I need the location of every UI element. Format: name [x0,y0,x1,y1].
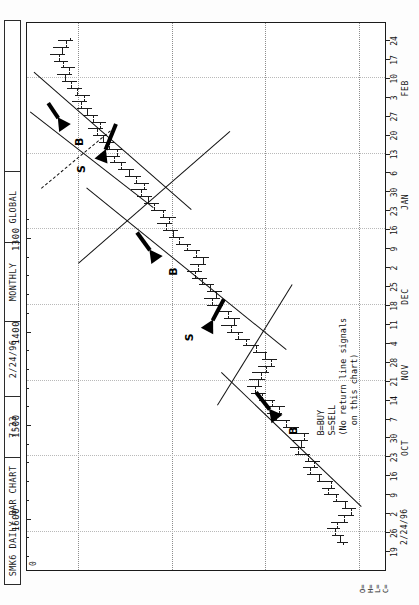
date-axis: 1926291623307142128411182529162330613202… [386,22,416,571]
ohlc-close-tick [310,472,311,475]
chart-header-bar: SMK6 DAILY BAR CHART 7:33 2/24/96 MONTHL… [4,20,21,585]
date-tick-label: 30 [390,188,399,198]
ohlc-close-tick [198,268,199,271]
date-tick-label: 16 [390,472,399,482]
ohlc-close-tick [238,336,239,339]
price-tick-minor [26,369,29,370]
price-tick [26,332,31,333]
ohlc-open-tick [71,82,72,85]
ohlc-close-tick [144,187,145,190]
ohlc-open-tick [261,373,262,376]
ohlc-close-tick [121,167,122,170]
ohlc-open-tick [100,122,101,125]
date-tick-label: 2 [390,512,399,517]
ohlc-open-tick [196,251,197,254]
ohlc-close-tick [335,533,336,536]
ohlc-bar [77,108,92,109]
price-tick-label: 1500 [11,414,21,438]
ohlc-close-tick [169,221,170,224]
ohlc-bar [62,81,77,82]
ohlc-open-tick [66,41,67,44]
signal-buy-2-label: B [167,267,180,275]
ohlc-close-tick [129,173,130,176]
date-tick-label: 2 [390,266,399,271]
ohlc-close-tick [65,78,66,81]
ohlc-open-tick [62,48,63,51]
signal-sell-2-label: S [75,165,88,173]
ohlc-close-tick [336,499,337,502]
date-tick-label: 9 [390,247,399,252]
ohlc-open-tick [231,326,232,329]
ohlc-open-tick [228,312,229,315]
ohlc-close-tick [81,106,82,109]
date-tick-label: 4 [390,341,399,346]
ohlc-corner-labels: O= H= L= C= [360,585,390,593]
date-tick-label: 7 [390,417,399,422]
price-tick-minor [26,537,29,538]
ohlc-open-tick [343,543,344,546]
ohlc-close-tick [77,92,78,95]
date-tick-label: 23 [390,206,399,216]
ohlc-open-tick [84,95,85,98]
ohlc-bar [332,535,344,536]
ohlc-close-tick [265,356,266,359]
ohlc-open-tick [345,502,346,505]
ohlc-open-tick [301,441,302,444]
date-tick-label: 19 [390,547,399,557]
month-label: NOV [401,364,410,380]
ohlc-open-tick [246,339,247,342]
signal-buy-1-label: B [287,427,300,435]
ohlc-close-tick [93,119,94,122]
date-gridline [27,531,385,532]
ohlc-open-tick [310,468,311,471]
signal-legend: B=BUY S=SELL (No return line signals on … [316,318,360,436]
ohlc-close-tick [228,316,229,319]
ohlc-bar [110,162,126,163]
ohlc-close-tick [331,485,332,488]
ohlc-open-tick [331,482,332,485]
ohlc-bar [262,359,277,360]
date-tick-label: 13 [390,150,399,160]
header-period: MONTHLY [5,242,20,321]
price-tick-minor [26,294,29,295]
ohlc-bar [151,210,166,211]
ohlc-close-tick [345,505,346,508]
signal-buy-3-arrow [43,99,71,132]
ohlc-close-tick [163,214,164,217]
date-tick-label: 24 [390,36,399,46]
ohlc-open-tick [336,495,337,498]
ohlc-open-tick [328,488,329,491]
ohlc-close-tick [141,194,142,197]
ohlc-close-tick [136,180,137,183]
ohlc-open-tick [144,183,145,186]
ohlc-bar [160,217,176,218]
ohlc-bar [163,230,178,231]
ohlc-bar [75,95,90,96]
signal-sell-1-arrow [201,296,230,334]
ohlc-close-tick [337,526,338,529]
date-tick-label: 18 [390,301,399,311]
ohlc-open-tick [351,509,352,512]
ohlc-close-tick [319,478,320,481]
price-tick-minor [26,556,29,557]
price-tick-minor [26,257,29,258]
ohlc-bar [193,257,209,258]
ohlc-close-tick [71,85,72,88]
chart-page: SMK6 DAILY BAR CHART 7:33 2/24/96 MONTHL… [0,0,419,605]
ohlc-open-tick [187,244,188,247]
date-tick-label: 14 [390,396,399,406]
ohlc-open-tick [304,434,305,437]
ohlc-open-tick [258,380,259,383]
ohlc-close-tick [166,228,167,231]
ohlc-bar [54,61,68,62]
ohlc-close-tick [344,519,345,522]
ohlc-open-tick [69,68,70,71]
ohlc-open-tick [212,299,213,302]
ohlc-close-tick [261,377,262,380]
price-tick-label: 1300 [11,227,21,251]
ohlc-open-tick [166,224,167,227]
price-tick-minor [26,388,29,389]
price-tick-label: 1600 [11,508,21,532]
ohlc-open-tick [179,238,180,241]
price-tick-minor [26,219,29,220]
